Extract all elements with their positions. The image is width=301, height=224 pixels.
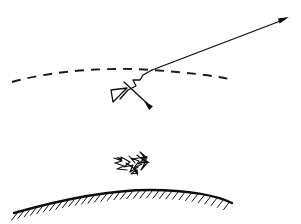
hatch-tick [205,197,211,204]
scribble-arrowhead [134,169,138,176]
hatch-tick [94,195,100,202]
hatch-tick [224,203,230,210]
hatch-tick [140,191,146,198]
hatch-tick [75,198,81,205]
hatch-tick [107,193,113,200]
hatch-tick [186,193,192,200]
hatch-tick [153,191,159,198]
hatch-tick [160,191,166,198]
hatch-tick [114,193,120,200]
hatch-tick [120,192,126,199]
hatch-tick [166,192,172,199]
hatch-tick [192,194,198,201]
hatch-tick [198,195,204,202]
hatch-tick [217,200,223,207]
hatch-tick [211,198,217,205]
dashed-boundary-curve [12,69,233,82]
hatch-tick [101,194,107,201]
outgoing-ray-arrowhead [278,17,289,23]
hatch-tick [146,191,152,198]
hatch-tick [127,192,133,199]
hatch-tick [173,192,179,199]
hatch-tick [12,213,18,220]
hatch-tick [88,196,94,203]
loop-triangle-marker [111,88,127,102]
ray-scattering-diagram: Ray scattering through a dashed boundary… [0,0,301,224]
zigzag-scatter-path [120,70,152,99]
incoming-ray-arrowhead [144,101,153,110]
outgoing-ray [152,20,283,70]
hatch-tick [133,191,139,198]
diagram-canvas: Ray scattering through a dashed boundary… [0,0,301,224]
scribble-scatter-cluster [114,152,150,176]
hatch-tick [82,197,88,204]
hatch-tick [179,193,185,200]
